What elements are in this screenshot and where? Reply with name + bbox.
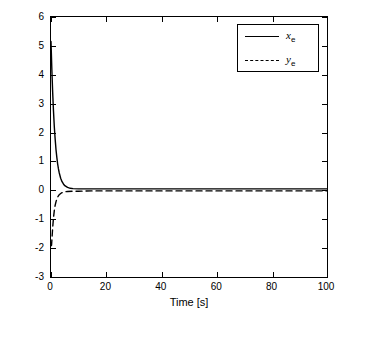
- x-axis-label-80: 80: [266, 281, 277, 292]
- x-axis-label-40: 40: [155, 281, 166, 292]
- legend-label-y-e-sub: e: [291, 59, 295, 68]
- y-axis-label--2: -2: [20, 242, 44, 253]
- y-axis-label-3: 3: [20, 97, 44, 108]
- y-axis-label-0: 0: [20, 184, 44, 195]
- plot-area: xe ye: [50, 16, 328, 278]
- legend-label-y-e: ye: [286, 53, 295, 68]
- x-tick-top-100: [327, 17, 328, 22]
- y-tick--3: [51, 277, 56, 278]
- y-axis-label-6: 6: [20, 11, 44, 22]
- x-axis-title: Time [s]: [50, 296, 328, 308]
- y-axis-label-5: 5: [20, 39, 44, 50]
- legend-label-x-e: xe: [286, 29, 295, 44]
- series-y-e-line: [51, 191, 327, 246]
- y-axis-label--1: -1: [20, 213, 44, 224]
- y-axis-label-2: 2: [20, 126, 44, 137]
- y-axis-label-4: 4: [20, 68, 44, 79]
- x-axis-label-100: 100: [318, 281, 335, 292]
- y-axis-label--3: -3: [20, 271, 44, 282]
- legend: xe ye: [237, 24, 319, 72]
- y-axis-label-1: 1: [20, 155, 44, 166]
- legend-row-x-e: xe: [238, 25, 318, 49]
- legend-label-x-e-sub: e: [291, 35, 295, 44]
- legend-sample-dashed-icon: [245, 60, 279, 61]
- x-axis-label-60: 60: [211, 281, 222, 292]
- chart-figure: xe ye -3 -2 -1 0 1 2 3 4 5 6 0 20 40 60 …: [0, 0, 378, 351]
- x-axis-label-20: 20: [100, 281, 111, 292]
- y-tick-right--3: [322, 277, 327, 278]
- x-axis-label-0: 0: [47, 281, 53, 292]
- legend-sample-solid-icon: [245, 36, 279, 37]
- legend-row-y-e: ye: [238, 49, 318, 73]
- x-tick-100: [327, 272, 328, 277]
